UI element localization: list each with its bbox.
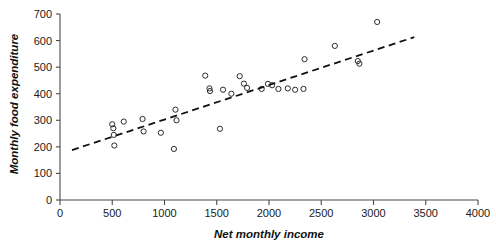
y-tick-label: 500 bbox=[34, 61, 52, 73]
y-tick-label: 400 bbox=[34, 88, 52, 100]
y-tick-label: 300 bbox=[34, 114, 52, 126]
data-point bbox=[158, 130, 163, 135]
data-point bbox=[229, 91, 234, 96]
x-tick-label: 3000 bbox=[361, 207, 385, 219]
data-point bbox=[217, 126, 222, 131]
scatter-chart: 0100200300400500600700 05001000150020002… bbox=[0, 0, 496, 249]
x-tick-label: 4000 bbox=[466, 207, 490, 219]
plot-area: 0100200300400500600700 05001000150020002… bbox=[0, 0, 496, 249]
y-tick-label: 0 bbox=[46, 194, 52, 206]
x-tick-label: 3500 bbox=[414, 207, 438, 219]
y-tick-label: 600 bbox=[34, 35, 52, 47]
x-axis-ticks: 05001000150020002500300035004000 bbox=[57, 200, 490, 219]
trend-line bbox=[72, 37, 414, 150]
data-point bbox=[121, 119, 126, 124]
x-tick-label: 1500 bbox=[205, 207, 229, 219]
y-tick-label: 100 bbox=[34, 167, 52, 179]
data-point bbox=[301, 86, 306, 91]
data-point bbox=[237, 74, 242, 79]
y-axis-title: Monthly food expenditure bbox=[8, 33, 20, 174]
data-point bbox=[302, 57, 307, 62]
data-point bbox=[203, 73, 208, 78]
data-points bbox=[110, 19, 380, 151]
y-tick-label: 200 bbox=[34, 141, 52, 153]
x-tick-label: 1000 bbox=[152, 207, 176, 219]
y-tick-label: 700 bbox=[34, 8, 52, 20]
data-point bbox=[285, 86, 290, 91]
x-tick-label: 500 bbox=[103, 207, 121, 219]
data-point bbox=[220, 87, 225, 92]
x-axis-title: Net monthly income bbox=[214, 228, 325, 240]
data-point bbox=[140, 116, 145, 121]
data-point bbox=[293, 87, 298, 92]
data-point bbox=[375, 19, 380, 24]
y-axis-ticks: 0100200300400500600700 bbox=[34, 8, 60, 206]
data-point bbox=[171, 146, 176, 151]
data-point bbox=[276, 86, 281, 91]
x-tick-label: 0 bbox=[57, 207, 63, 219]
data-point bbox=[141, 129, 146, 134]
data-point bbox=[332, 43, 337, 48]
data-point bbox=[112, 143, 117, 148]
data-point bbox=[173, 107, 178, 112]
data-point bbox=[174, 118, 179, 123]
x-tick-label: 2500 bbox=[309, 207, 333, 219]
x-tick-label: 2000 bbox=[257, 207, 281, 219]
data-point bbox=[244, 85, 249, 90]
